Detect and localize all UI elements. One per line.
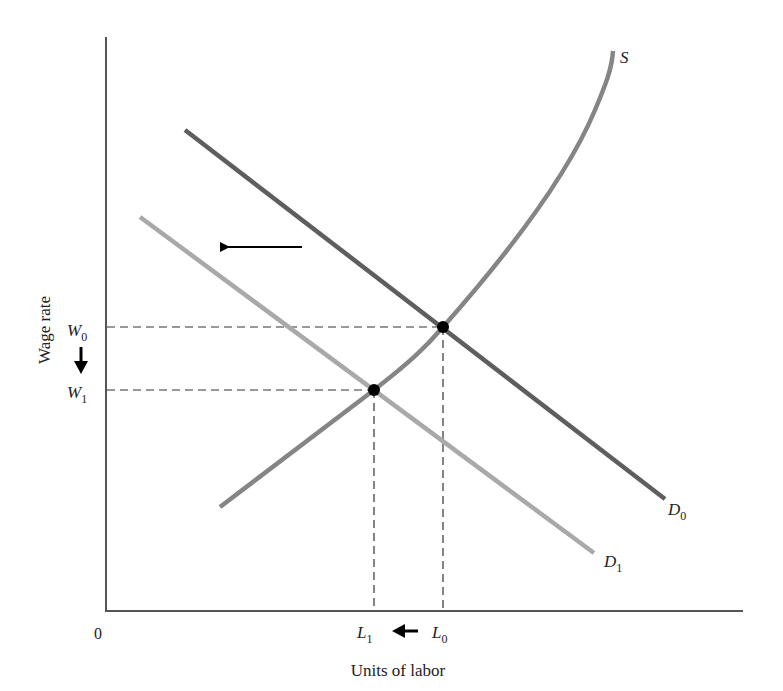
- x-axis-title: Units of labor: [351, 661, 446, 680]
- guide-lines: [107, 327, 443, 611]
- d1-label: D1: [603, 552, 622, 575]
- y-axis-title: Wage rate: [35, 296, 54, 364]
- l0-label: L0: [431, 623, 447, 646]
- labor-decrease-arrow-icon: [392, 624, 418, 638]
- w0-label: W0: [67, 321, 87, 344]
- l1-label: L1: [356, 623, 372, 646]
- w1-label: W1: [67, 383, 87, 406]
- origin-label: 0: [94, 625, 102, 642]
- wage-decrease-arrow-icon: [74, 347, 88, 374]
- supply-label: S: [620, 48, 629, 67]
- labor-market-chart: S D0 D1 W0 W1 L1 L0 0 Units of labor Wag…: [0, 0, 783, 691]
- equilibrium-point-e1: [368, 384, 380, 396]
- demand-curve-d0: [185, 130, 665, 499]
- supply-curve-s: [220, 51, 613, 507]
- d0-label: D0: [667, 500, 686, 523]
- equilibrium-point-e0: [437, 321, 449, 333]
